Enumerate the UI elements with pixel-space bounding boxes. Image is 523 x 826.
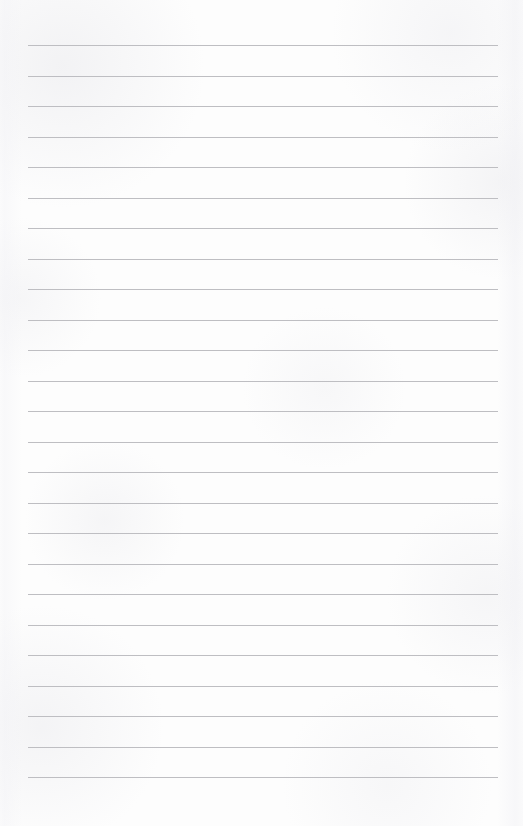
lined-paper-page — [0, 0, 523, 826]
writing-area[interactable] — [28, 30, 498, 790]
